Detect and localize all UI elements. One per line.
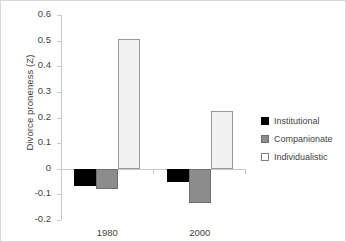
y-tick-mark	[57, 66, 61, 67]
bar-institutional-2000	[167, 169, 189, 182]
y-tick-label: 0.1	[38, 136, 51, 147]
y-tick-label: 0.5	[38, 34, 51, 45]
y-axis-title: Divorce proneness (Z)	[24, 13, 35, 193]
y-tick-mark	[57, 143, 61, 144]
plot-area: 0.60.50.40.30.20.10-0.1-0.2 19802000	[61, 15, 246, 220]
x-axis-tick	[245, 169, 246, 174]
y-tick: 0.2	[3, 118, 61, 119]
y-tick-label: 0.3	[38, 85, 51, 96]
y-tick: 0.3	[3, 92, 61, 93]
bar-institutional-1980	[74, 169, 96, 186]
y-tick-mark	[57, 118, 61, 119]
legend-item-individualistic[interactable]: Individualistic	[261, 149, 333, 164]
legend-swatch-individualistic-icon	[261, 153, 269, 161]
bar-companionate-2000	[189, 169, 211, 204]
x-axis-label-2000: 2000	[170, 227, 230, 238]
bar-companionate-1980	[96, 169, 118, 190]
y-tick-label: 0.4	[38, 59, 51, 70]
bar-individualistic-1980	[118, 39, 140, 168]
x-axis-tick	[153, 169, 154, 174]
y-tick: 0.6	[3, 15, 61, 16]
legend-swatch-companionate-icon	[261, 135, 269, 143]
y-tick: 0	[3, 169, 61, 170]
x-axis-label-1980: 1980	[77, 227, 137, 238]
legend-swatch-institutional-icon	[261, 117, 269, 125]
chart-legend: InstitutionalCompanionateIndividualistic	[261, 113, 333, 167]
y-tick: -0.2	[3, 220, 61, 221]
legend-label: Companionate	[274, 134, 333, 144]
y-tick-label: -0.2	[35, 213, 51, 224]
bar-individualistic-2000	[211, 111, 233, 169]
legend-item-institutional[interactable]: Institutional	[261, 113, 333, 128]
y-tick-mark	[57, 15, 61, 16]
y-tick-mark	[57, 92, 61, 93]
y-tick-mark	[57, 194, 61, 195]
y-tick: 0.1	[3, 143, 61, 144]
y-tick-label: 0	[46, 162, 51, 173]
y-tick-label: 0.6	[38, 8, 51, 19]
y-tick-mark	[57, 41, 61, 42]
y-axis-line	[61, 15, 62, 220]
y-tick: -0.1	[3, 194, 61, 195]
y-tick: 0.5	[3, 41, 61, 42]
y-tick-label: 0.2	[38, 111, 51, 122]
legend-label: Individualistic	[274, 152, 328, 162]
y-tick-mark	[57, 220, 61, 221]
y-tick-label: -0.1	[35, 187, 51, 198]
legend-label: Institutional	[274, 116, 320, 126]
chart-figure: Divorce proneness (Z) 0.60.50.40.30.20.1…	[0, 0, 346, 242]
legend-item-companionate[interactable]: Companionate	[261, 131, 333, 146]
y-tick: 0.4	[3, 66, 61, 67]
